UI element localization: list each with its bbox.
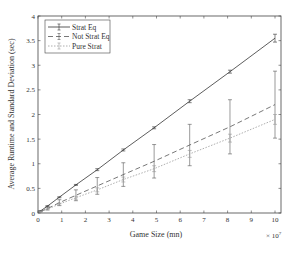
x-tick-label: 4 [131,216,135,224]
series-line [40,105,275,212]
chart: 01234567891000.511.522.533.54 Game Size … [0,0,299,254]
series-not-strat-eq [38,71,277,212]
y-tick-label: 0.5 [26,185,35,193]
y-axis-label: Average Runtime and Standard Deviation (… [7,38,16,189]
y-tick-label: 1 [32,160,36,168]
x-tick-label: 2 [84,216,88,224]
x-tick-label: 8 [226,216,230,224]
series-line [40,38,275,211]
legend: Strat EqNot Strat EqPure Strat [45,20,110,53]
x-tick-label: 7 [202,216,206,224]
series-layer [38,34,277,212]
y-tick-label: 0 [32,210,36,218]
legend-label: Pure Strat [72,42,103,51]
x-tick-label: 9 [250,216,254,224]
y-tick-label: 2 [32,111,36,119]
x-axis-label: Game Size (mn) [130,230,183,239]
legend-label: Strat Eq [72,23,97,32]
x-tick-label: 10 [272,216,280,224]
series-strat-eq [38,34,277,211]
y-tick-label: 3 [32,62,36,70]
x-tick-label: 6 [178,216,182,224]
y-tick-label: 1.5 [26,136,35,144]
x-axis-multiplier: × 107 [266,231,282,240]
x-tick-label: 1 [60,216,64,224]
x-tick-label: 0 [36,216,40,224]
legend-label: Not Strat Eq [72,32,110,41]
y-tick-label: 4 [32,13,36,21]
series-line [40,119,275,211]
series-pure-strat [38,115,277,212]
y-tick-label: 2.5 [26,86,35,94]
x-tick-label: 5 [155,216,159,224]
y-tick-label: 3.5 [26,37,35,45]
x-tick-label: 3 [107,216,111,224]
